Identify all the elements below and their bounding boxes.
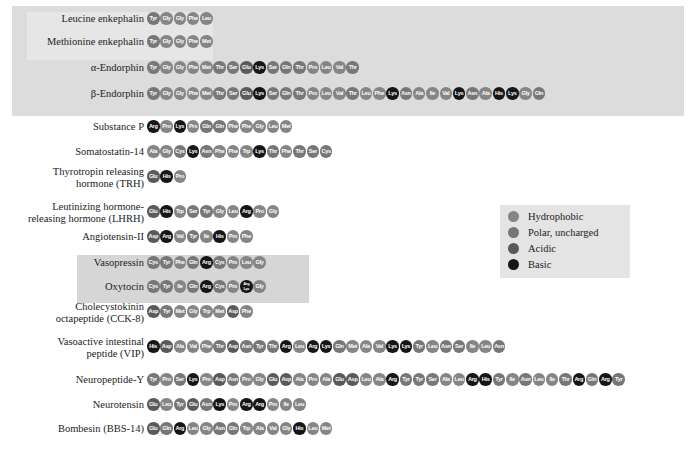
amino-acid-residue: Met — [200, 35, 213, 48]
legend-swatch-icon — [508, 227, 519, 238]
amino-acid-residue: Trp — [240, 422, 253, 435]
amino-acid-residue: Phe — [240, 230, 253, 243]
amino-acid-residue: Gly — [253, 373, 266, 386]
amino-acid-residue: Phe — [227, 120, 240, 133]
amino-acid-residue: Pro — [267, 398, 280, 411]
amino-acid-sequence: GluGlnArgLeuGlyAsnGlnTrpAlaValGlyHisLeuM… — [147, 422, 332, 435]
amino-acid-residue: Ile — [506, 373, 519, 386]
amino-acid-residue: Leu — [360, 373, 373, 386]
amino-acid-residue: Tyr — [612, 373, 625, 386]
amino-acid-residue: Ala — [320, 373, 333, 386]
amino-acid-residue: Ser — [267, 61, 280, 74]
amino-acid-residue: Arg — [599, 373, 612, 386]
amino-acid-residue: Asn — [227, 373, 240, 386]
amino-acid-residue: His — [147, 340, 160, 353]
peptide-name: Leutinizing hormone- releasing hormone (… — [28, 201, 144, 225]
amino-acid-residue: Gly — [253, 280, 266, 293]
amino-acid-residue: Glu — [333, 373, 346, 386]
amino-acid-sequence: CysTyrIleGlnArgCysProArgLysGly — [147, 280, 266, 293]
amino-acid-residue: Glu — [240, 61, 253, 74]
amino-acid-residue: Thr — [559, 373, 572, 386]
amino-acid-residue: Glu — [147, 398, 160, 411]
peptide-name: Neurotensin — [93, 399, 144, 411]
amino-acid-residue: His — [213, 230, 226, 243]
amino-acid-residue: Phe — [213, 145, 226, 158]
amino-acid-residue: Ile — [546, 373, 559, 386]
amino-acid-residue: Pro — [307, 61, 320, 74]
amino-acid-residue: Gly — [160, 145, 173, 158]
legend-label: Polar, uncharged — [528, 227, 599, 238]
amino-acid-residue: Lys — [213, 398, 226, 411]
amino-acid-residue: Met — [213, 305, 226, 318]
amino-acid-residue: Gln — [227, 422, 240, 435]
amino-acid-residue: Leu — [293, 398, 306, 411]
amino-acid-residue: Ser — [267, 87, 280, 100]
amino-acid-residue: Gln — [160, 422, 173, 435]
amino-acid-residue: Cys — [174, 145, 187, 158]
amino-acid-residue: Arg — [200, 280, 213, 293]
amino-acid-residue: Tyr — [400, 373, 413, 386]
amino-acid-residue: Lys — [187, 373, 200, 386]
amino-acid-sequence: TyrProSerLysProAspAsnProGlyGluAspAlaProA… — [147, 373, 625, 386]
amino-acid-sequence: AspArgValTyrIleHisProPhe — [147, 230, 253, 243]
amino-acid-residue: Ala — [373, 373, 386, 386]
amino-acid-residue: Asn — [519, 373, 532, 386]
amino-acid-residue: His — [479, 373, 492, 386]
amino-acid-residue: Tyr — [147, 61, 160, 74]
amino-acid-residue: Lys — [253, 61, 266, 74]
amino-acid-residue: Glu — [147, 170, 160, 183]
amino-acid-residue: Leu — [227, 205, 240, 218]
amino-acid-residue: Pro — [307, 87, 320, 100]
amino-acid-residue: Gln — [586, 373, 599, 386]
amino-acid-residue: Tyr — [160, 256, 173, 269]
amino-acid-residue: Met — [200, 87, 213, 100]
amino-acid-residue: Arg — [240, 205, 253, 218]
amino-acid-residue: Asp — [160, 340, 173, 353]
amino-acid-residue: Pro — [253, 205, 266, 218]
amino-acid-residue: Leu — [533, 373, 546, 386]
peptide-name: Vasopressin — [94, 257, 144, 269]
amino-acid-residue: Gly — [213, 205, 226, 218]
amino-acid-residue: Ser — [174, 373, 187, 386]
amino-acid-residue: Lys — [253, 145, 266, 158]
amino-acid-residue: Trp — [240, 145, 253, 158]
legend-label: Basic — [528, 259, 551, 270]
amino-acid-sequence: GluLeuTyrGluAsnLysProArgArgProIleLeu — [147, 398, 306, 411]
amino-acid-sequence: TyrGlyGlyPheLeu — [147, 12, 213, 25]
amino-acid-residue: Tyr — [160, 280, 173, 293]
amino-acid-residue: Leu — [293, 340, 306, 353]
amino-acid-residue: Gly — [200, 422, 213, 435]
amino-acid-residue: Cys — [213, 256, 226, 269]
amino-acid-residue: Ala — [293, 373, 306, 386]
amino-acid-residue: Tyr — [253, 340, 266, 353]
amino-acid-residue: Thr — [346, 87, 359, 100]
amino-acid-residue: Phe — [227, 145, 240, 158]
amino-acid-sequence: CysTyrPheGlnArgCysProLeuGly — [147, 256, 266, 269]
amino-acid-residue: Glu — [240, 87, 253, 100]
amino-acid-residue: Lys — [400, 340, 413, 353]
amino-acid-residue: Gly — [160, 61, 173, 74]
legend-item: Basic — [508, 259, 551, 270]
amino-acid-residue: Val — [267, 422, 280, 435]
amino-acid-residue: Tyr — [187, 230, 200, 243]
amino-acid-residue: Asp — [346, 373, 359, 386]
amino-acid-residue: Gln — [280, 87, 293, 100]
amino-acid-residue: Ser — [426, 373, 439, 386]
amino-acid-residue: Leu — [160, 398, 173, 411]
amino-acid-residue: Lys — [174, 120, 187, 133]
amino-acid-residue: Asp — [227, 305, 240, 318]
amino-acid-residue: Val — [373, 340, 386, 353]
amino-acid-residue: Pro — [227, 230, 240, 243]
amino-acid-residue: Ser — [453, 340, 466, 353]
amino-acid-residue: Leu — [267, 120, 280, 133]
amino-acid-residue: Met — [320, 422, 333, 435]
amino-acid-residue: Lys — [253, 87, 266, 100]
amino-acid-sequence: TyrGlyGlyPheMetThrSerGluLysSerGlnThrProL… — [147, 61, 359, 74]
amino-acid-residue: Ser — [227, 61, 240, 74]
amino-acid-residue: Leu — [320, 87, 333, 100]
amino-acid-residue: Gly — [174, 12, 187, 25]
peptide-name: Thyrotropin releasing hormone (TRH) — [53, 166, 144, 190]
amino-acid-residue: Asn — [493, 340, 506, 353]
amino-acid-residue: Asp — [147, 305, 160, 318]
amino-acid-residue: Leu — [307, 422, 320, 435]
